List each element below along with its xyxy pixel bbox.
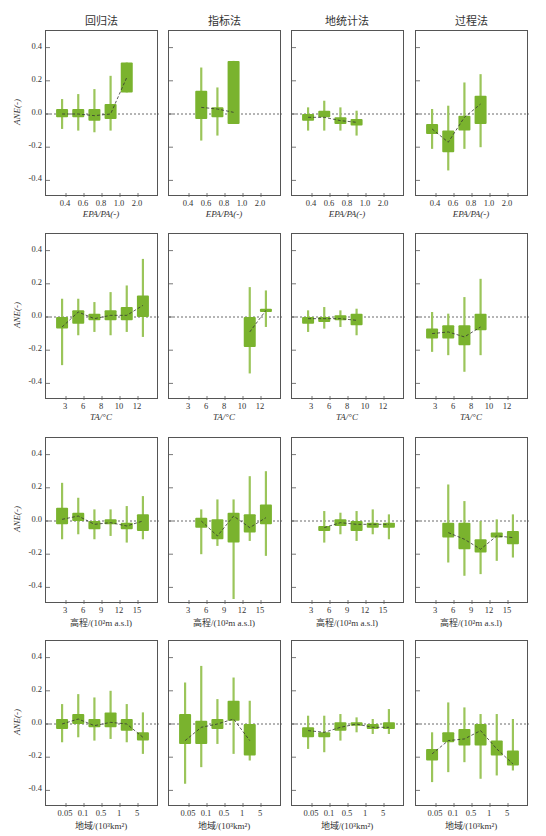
box xyxy=(442,523,454,538)
x-tick-label: 12 xyxy=(371,401,395,411)
x-axis-label: EPA/PA(-) xyxy=(415,209,527,219)
x-tick-label: 5 xyxy=(125,808,149,818)
x-axis-label: EPA/PA(-) xyxy=(168,209,280,219)
y-axis-label: ANE(-) xyxy=(12,702,22,742)
boxplot-svg xyxy=(292,641,405,807)
box xyxy=(105,712,117,727)
box xyxy=(137,514,149,531)
x-tick-label: 15 xyxy=(125,605,149,615)
y-tick-label: 0.4 xyxy=(16,448,42,458)
median-trend-line xyxy=(308,319,357,321)
column-title: 指标法 xyxy=(168,12,280,28)
box xyxy=(121,719,133,731)
x-axis-label: 地域/(10³km²) xyxy=(45,819,157,832)
x-tick-label: 5 xyxy=(248,808,272,818)
y-axis-label: ANE(-) xyxy=(12,499,22,539)
plot-panel xyxy=(168,30,281,196)
x-axis-label: 高程/(10²m a.s.l) xyxy=(168,616,280,629)
box xyxy=(121,307,133,320)
box xyxy=(318,111,330,118)
box xyxy=(491,533,503,538)
box xyxy=(228,701,240,721)
plot-panel xyxy=(291,437,404,603)
box xyxy=(334,315,346,320)
boxplot-svg xyxy=(169,641,282,807)
median-trend-line xyxy=(308,117,357,122)
box xyxy=(228,513,240,543)
box xyxy=(367,523,379,528)
box xyxy=(72,109,84,117)
y-tick-label: -0.4 xyxy=(16,173,42,183)
y-tick-label: 0.2 xyxy=(16,74,42,84)
plot-panel xyxy=(291,233,404,399)
plot-panel xyxy=(291,30,404,196)
box xyxy=(458,729,470,746)
box xyxy=(351,521,363,531)
column-title: 过程法 xyxy=(415,12,527,28)
y-tick-label: 0.2 xyxy=(16,277,42,287)
y-tick-label: -0.4 xyxy=(16,580,42,590)
box xyxy=(475,96,487,124)
boxplot-svg xyxy=(416,438,529,604)
x-tick-label: 2.0 xyxy=(248,198,272,208)
x-tick-label: 2.0 xyxy=(495,198,519,208)
boxplot-svg xyxy=(416,641,529,807)
column-title: 回归法 xyxy=(45,12,157,28)
box xyxy=(302,317,314,324)
x-tick-label: 15 xyxy=(248,605,272,615)
x-axis-label: 高程/(10²m a.s.l) xyxy=(291,616,403,629)
y-tick-label: -0.2 xyxy=(16,750,42,760)
box xyxy=(383,722,395,729)
box xyxy=(105,104,117,119)
box xyxy=(56,508,68,525)
column-title: 地统计法 xyxy=(291,12,403,28)
plot-panel xyxy=(45,640,158,806)
box xyxy=(88,521,100,529)
boxplot-svg xyxy=(292,31,405,197)
y-tick-label: 0.4 xyxy=(16,651,42,661)
boxplot-svg xyxy=(46,438,159,604)
box xyxy=(318,526,330,531)
box xyxy=(179,714,191,744)
y-tick-label: 0.4 xyxy=(16,244,42,254)
x-axis-label: 高程/(10²m a.s.l) xyxy=(45,616,157,629)
x-tick-label: 12 xyxy=(248,401,272,411)
x-axis-label: 地域/(10³km²) xyxy=(168,819,280,832)
x-axis-label: TA/°C xyxy=(291,412,403,422)
x-axis-label: EPA/PA(-) xyxy=(45,209,157,219)
box xyxy=(458,325,470,345)
x-axis-label: TA/°C xyxy=(45,412,157,422)
box xyxy=(56,719,68,729)
box xyxy=(351,314,363,326)
box xyxy=(88,719,100,727)
y-tick-label: -0.2 xyxy=(16,140,42,150)
box xyxy=(195,721,207,744)
boxplot-svg xyxy=(46,641,159,807)
box xyxy=(56,109,68,117)
box xyxy=(458,523,470,550)
x-axis-label: EPA/PA(-) xyxy=(291,209,403,219)
box xyxy=(244,724,256,756)
plot-panel xyxy=(415,30,528,196)
box xyxy=(507,531,519,544)
x-tick-label: 12 xyxy=(125,401,149,411)
boxplot-svg xyxy=(416,234,529,400)
median-trend-line xyxy=(432,327,481,337)
boxplot-svg xyxy=(46,234,159,400)
y-tick-label: -0.2 xyxy=(16,547,42,557)
x-tick-label: 2.0 xyxy=(371,198,395,208)
box xyxy=(318,732,330,737)
boxplot-svg xyxy=(169,438,282,604)
median-trend-line xyxy=(432,104,481,142)
box xyxy=(318,317,330,322)
plot-panel xyxy=(168,233,281,399)
box xyxy=(137,295,149,317)
box xyxy=(244,514,256,532)
x-axis-label: 高程/(10²m a.s.l) xyxy=(415,616,527,629)
x-tick-label: 12 xyxy=(495,401,519,411)
boxplot-svg xyxy=(416,31,529,197)
box xyxy=(302,727,314,737)
boxplot-svg xyxy=(292,234,405,400)
plot-panel xyxy=(415,233,528,399)
boxplot-svg xyxy=(292,438,405,604)
